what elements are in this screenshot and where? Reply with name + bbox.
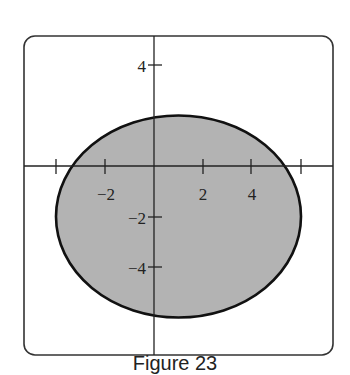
- y-tick-label-neg2: −2: [128, 209, 146, 228]
- y-tick-label-4: 4: [138, 57, 147, 76]
- x-tick-label-neg2: −2: [97, 185, 115, 204]
- shaded-ellipse-region: [56, 116, 301, 318]
- x-tick-label-2: 2: [199, 185, 208, 204]
- y-tick-label-neg4: −4: [128, 259, 147, 278]
- x-tick-label-4: 4: [248, 185, 257, 204]
- figure-caption: Figure 23: [0, 352, 350, 375]
